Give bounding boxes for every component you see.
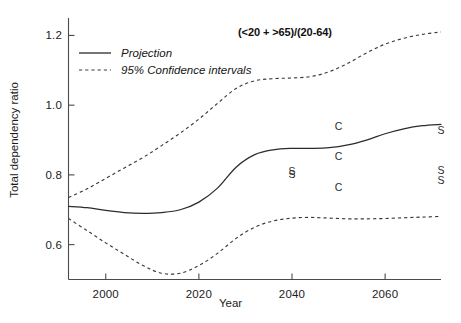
scenario-marker-c: C bbox=[335, 150, 343, 161]
legend: Projection 95% Confidence intervals bbox=[78, 44, 278, 78]
scenario-marker-s: S bbox=[437, 175, 444, 186]
ratio-formula-annotation: (<20 + >65)/(20-64) bbox=[238, 26, 332, 38]
legend-item-projection: Projection bbox=[78, 44, 278, 61]
ci-lower-line bbox=[69, 216, 442, 274]
scenario-marker-c: C bbox=[335, 182, 343, 193]
y-tick-label: 0.6 bbox=[30, 239, 62, 251]
legend-label-projection: Projection bbox=[121, 47, 172, 59]
legend-dashed-line-icon bbox=[78, 65, 112, 75]
projection-line bbox=[69, 124, 442, 213]
y-axis-ticks bbox=[69, 35, 75, 244]
y-tick-label: 1.0 bbox=[30, 99, 62, 111]
scenario-marker-c: C bbox=[335, 121, 343, 132]
x-axis-ticks bbox=[106, 274, 385, 280]
scenario-marker-s: S bbox=[437, 125, 444, 136]
legend-item-confidence: 95% Confidence intervals bbox=[78, 61, 278, 78]
legend-label-confidence: 95% Confidence intervals bbox=[121, 64, 251, 76]
x-axis-label: Year bbox=[0, 297, 461, 309]
scenario-marker-s: S bbox=[288, 169, 295, 180]
legend-solid-line-icon bbox=[78, 48, 112, 58]
y-axis-label-container: Total dependency ratio bbox=[4, 0, 24, 280]
y-tick-label: 0.8 bbox=[30, 169, 62, 181]
y-axis-label: Total dependency ratio bbox=[8, 82, 20, 198]
dependency-ratio-chart: 0.60.81.01.2 2000202020402060 SSCCCSSS (… bbox=[0, 0, 461, 323]
y-tick-label: 1.2 bbox=[30, 29, 62, 41]
